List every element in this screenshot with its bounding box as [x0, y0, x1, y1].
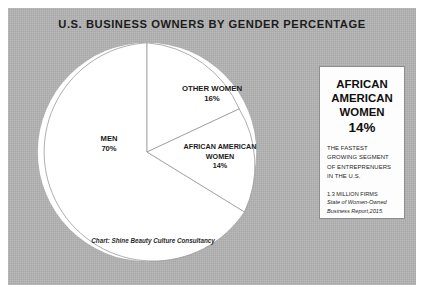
callout-heading: AFRICAN AMERICAN WOMEN — [327, 77, 397, 119]
pie-label-other-women-name: OTHER WOMEN — [182, 84, 242, 93]
chart-credit: Chart: Shine Beauty Culture Consultancy — [68, 237, 238, 244]
pie-label-aa-name-line1: AFRICAN AMERICAN — [184, 142, 257, 151]
callout-source: 1.3 MILLION FIRMS State of Women-Owned B… — [327, 190, 397, 216]
pie-label-aa-value: 14% — [166, 161, 274, 171]
pie-label-other-women-value: 16% — [158, 94, 266, 104]
callout-box: AFRICAN AMERICAN WOMEN 14% THE FASTEST G… — [319, 66, 405, 219]
callout-body-text: THE FASTEST GROWING SEGMENT OF ENTREPREN… — [327, 144, 397, 182]
callout-percent: 14% — [327, 120, 397, 136]
callout-heading-line3: WOMEN — [340, 106, 385, 118]
pie-label-aa-name-line2: WOMEN — [166, 152, 274, 162]
pie-label-men-name: MEN — [101, 134, 118, 143]
pie-label-other-women: OTHER WOMEN 16% — [158, 84, 266, 105]
callout-heading-line2: AMERICAN — [331, 92, 392, 104]
page-title: U.S. BUSINESS OWNERS BY GENDER PERCENTAG… — [8, 18, 416, 30]
callout-heading-line1: AFRICAN — [336, 78, 387, 90]
pie-label-african-american-women: AFRICAN AMERICAN WOMEN 14% — [166, 142, 274, 171]
pie-label-men: MEN 70% — [74, 134, 144, 154]
callout-source-figure: 1.3 MILLION FIRMS — [327, 190, 397, 199]
callout-source-citation: State of Women-Owned Business Report,201… — [327, 198, 397, 215]
pie-label-men-value: 70% — [74, 144, 144, 154]
slide-canvas: U.S. BUSINESS OWNERS BY GENDER PERCENTAG… — [8, 8, 416, 285]
